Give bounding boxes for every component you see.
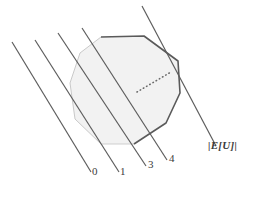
diagram-svg <box>0 0 259 207</box>
level-line-label-0: 0 <box>92 166 98 177</box>
axis-label-expected-utility: |E[U]| <box>208 140 237 151</box>
feasible-region-polygon <box>70 36 180 144</box>
level-line-label-1: 1 <box>120 166 126 177</box>
level-line-label-3: 3 <box>148 159 154 170</box>
level-line-label-4: 4 <box>169 153 175 164</box>
figure-canvas: 0 1 3 4 |E[U]| <box>0 0 259 207</box>
